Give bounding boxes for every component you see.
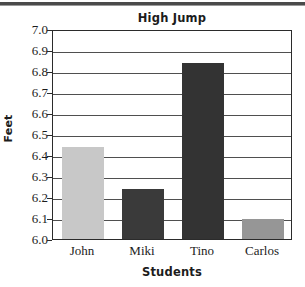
y-axis-tick-labels: 7.06.96.86.76.66.56.46.36.26.16.0 bbox=[0, 30, 48, 240]
bar-miki bbox=[122, 189, 164, 239]
x-axis-tick-label-john: John bbox=[70, 243, 95, 259]
plot-frame bbox=[52, 30, 292, 240]
chart-title: High Jump bbox=[52, 11, 292, 25]
x-axis-tick-labels: JohnMikiTinoCarlos bbox=[52, 243, 292, 263]
y-axis-tick-label: 6.0 bbox=[2, 232, 48, 248]
y-axis-tick-label: 6.4 bbox=[2, 148, 48, 164]
gridline bbox=[53, 136, 291, 137]
y-axis-tick-label: 6.5 bbox=[2, 127, 48, 143]
bar-carlos bbox=[242, 219, 284, 239]
x-axis-title: Students bbox=[52, 265, 292, 279]
gridline bbox=[53, 115, 291, 116]
page-scan-edge-shadow bbox=[0, 5, 305, 6]
y-axis-tick-label: 6.1 bbox=[2, 211, 48, 227]
y-axis-tick-mark bbox=[47, 240, 52, 241]
x-axis-tick-label-tino: Tino bbox=[190, 243, 214, 259]
x-axis-tick-label-carlos: Carlos bbox=[245, 243, 279, 259]
y-axis-tick-label: 6.2 bbox=[2, 190, 48, 206]
y-axis-tick-label: 6.3 bbox=[2, 169, 48, 185]
gridline bbox=[53, 52, 291, 53]
y-axis-tick-label: 6.8 bbox=[2, 64, 48, 80]
y-axis-tick-label: 6.7 bbox=[2, 85, 48, 101]
y-axis-tick-label: 7.0 bbox=[2, 22, 48, 38]
plot-area bbox=[53, 31, 291, 239]
gridline bbox=[53, 73, 291, 74]
bar-john bbox=[62, 147, 104, 239]
y-axis-tick-label: 6.6 bbox=[2, 106, 48, 122]
gridline bbox=[53, 94, 291, 95]
x-axis-tick-label-miki: Miki bbox=[129, 243, 154, 259]
y-axis-tick-label: 6.9 bbox=[2, 43, 48, 59]
bar-tino bbox=[182, 63, 224, 239]
